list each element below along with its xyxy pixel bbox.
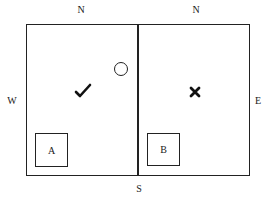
north-label-right: N — [192, 5, 199, 15]
checkmark-icon — [74, 83, 92, 103]
cross-icon — [189, 84, 201, 102]
circle-icon — [114, 62, 128, 76]
east-label: E — [255, 96, 261, 106]
box-a-label: A — [48, 145, 55, 156]
west-label: W — [7, 96, 16, 106]
box-b-label: B — [160, 144, 167, 155]
south-label: S — [136, 184, 142, 194]
box-a: A — [35, 133, 68, 167]
box-b: B — [147, 133, 180, 166]
north-label-left: N — [77, 5, 84, 15]
center-divider — [137, 24, 139, 176]
